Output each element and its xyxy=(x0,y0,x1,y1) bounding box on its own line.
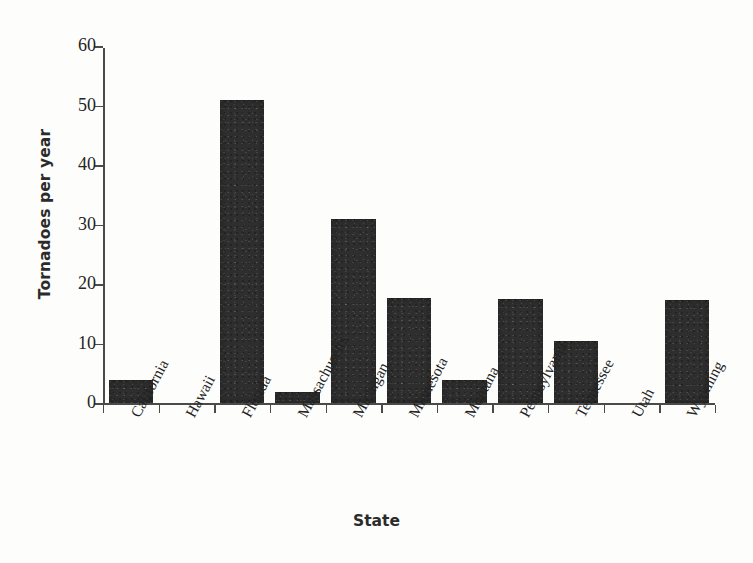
plot-area: 0102030405060 xyxy=(103,48,715,405)
x-tick-mark xyxy=(381,405,382,413)
x-tick-mark xyxy=(437,405,438,413)
x-tick-mark xyxy=(326,405,327,413)
x-tick-mark xyxy=(492,405,493,413)
y-tick-label: 50 xyxy=(78,95,96,116)
y-tick-label: 10 xyxy=(78,333,96,354)
y-axis-line xyxy=(103,48,105,405)
y-tick-label: 40 xyxy=(78,154,96,175)
bar-chart-figure: Tornadoes per year 0102030405060 Califor… xyxy=(0,0,753,563)
y-axis-title: Tornadoes per year xyxy=(36,99,54,329)
x-tick-mark xyxy=(548,405,549,413)
x-tick-mark xyxy=(159,405,160,413)
y-tick-label: 20 xyxy=(78,273,96,294)
x-tick-mark xyxy=(270,405,271,413)
x-axis-title: State xyxy=(0,512,753,530)
x-tick-mark xyxy=(659,405,660,413)
x-tick-mark xyxy=(715,405,716,413)
x-tick-mark xyxy=(214,405,215,413)
bar xyxy=(220,100,265,403)
x-tick-mark xyxy=(604,405,605,413)
x-tick-mark xyxy=(103,405,104,413)
y-tick-label: 60 xyxy=(78,35,96,56)
y-tick-label: 0 xyxy=(87,392,96,413)
y-tick-label: 30 xyxy=(78,214,96,235)
